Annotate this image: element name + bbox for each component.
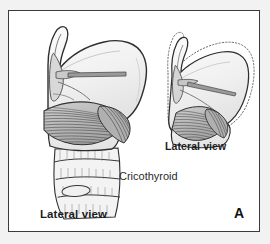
figure-plate: Lateral view Lateral view Cricothyroid A xyxy=(0,0,270,244)
panel-letter-label: A xyxy=(234,206,244,220)
left-larynx-figure xyxy=(44,27,146,219)
larynx-anatomy-illustration xyxy=(8,10,260,232)
label-lateral-view-right: Lateral view xyxy=(165,141,226,152)
label-lateral-view-left: Lateral view xyxy=(40,209,107,221)
label-muscle-name: Cricothyroid xyxy=(119,171,178,182)
right-larynx-figure xyxy=(168,32,254,147)
